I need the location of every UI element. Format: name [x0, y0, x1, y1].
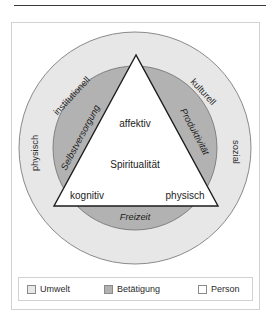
legend: Umwelt Betätigung Person [18, 277, 253, 301]
legend-swatch-betaetigung [104, 285, 113, 294]
label-sozial: sozial [231, 140, 241, 164]
legend-swatch-person [198, 285, 207, 294]
legend-label-umwelt: Umwelt [40, 285, 70, 294]
label-kognitiv: kognitiv [70, 190, 104, 201]
top-horizontal-rule [14, 5, 266, 6]
legend-item-person: Person [198, 285, 240, 294]
label-physisch-umwelt: physisch [30, 135, 40, 171]
peo-model-diagram: institutionell kulturell sozial physisch… [11, 22, 260, 310]
label-affektiv: affektiv [119, 118, 151, 129]
label-spiritualitaet: Spiritualität [110, 159, 160, 170]
legend-item-umwelt: Umwelt [27, 285, 70, 294]
label-physisch-person: physisch [166, 190, 205, 201]
legend-label-person: Person [211, 285, 240, 294]
label-freizeit: Freizeit [120, 212, 151, 222]
legend-item-betaetigung: Betätigung [104, 285, 160, 294]
legend-swatch-umwelt [27, 285, 36, 294]
legend-label-betaetigung: Betätigung [117, 285, 160, 294]
